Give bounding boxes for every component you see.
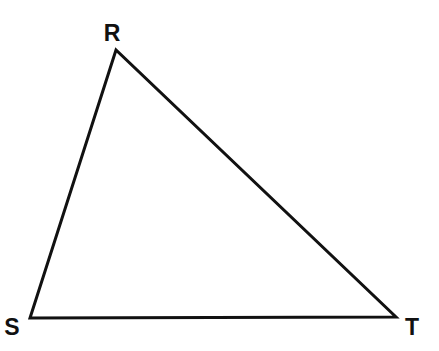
vertex-label-r: R	[104, 22, 121, 45]
triangle-canvas	[0, 0, 439, 351]
triangle-outline	[30, 50, 396, 318]
triangle-figure: R S T	[0, 0, 439, 351]
vertex-label-t: T	[405, 316, 419, 339]
vertex-label-s: S	[4, 316, 19, 339]
